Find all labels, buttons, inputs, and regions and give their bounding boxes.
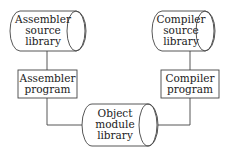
label-line: program xyxy=(161,84,219,95)
edge-cmp-prog-to-obj xyxy=(157,98,190,125)
label-object-module-library: Object module library xyxy=(86,108,144,141)
label-line: library xyxy=(12,36,74,47)
label-compiler-source-library: Compiler source library xyxy=(155,14,207,47)
label-line: library xyxy=(155,36,207,47)
edge-asm-prog-to-obj xyxy=(47,98,84,125)
label-assembler-source-library: Assembler source library xyxy=(12,14,74,47)
label-assembler-program: Assembler program xyxy=(18,73,77,95)
label-line: library xyxy=(86,130,144,141)
label-compiler-program: Compiler program xyxy=(161,73,219,95)
label-line: program xyxy=(18,84,77,95)
